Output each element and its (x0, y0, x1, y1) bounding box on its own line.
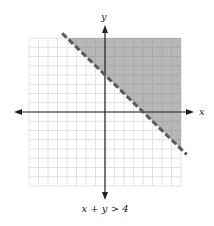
inequality-caption: x + y > 4 (0, 203, 210, 214)
coordinate-plane (0, 0, 214, 226)
y-axis-label: y (101, 11, 107, 22)
x-axis-label: x (199, 106, 205, 117)
inequality-graph: y x x + y > 4 (0, 0, 214, 226)
